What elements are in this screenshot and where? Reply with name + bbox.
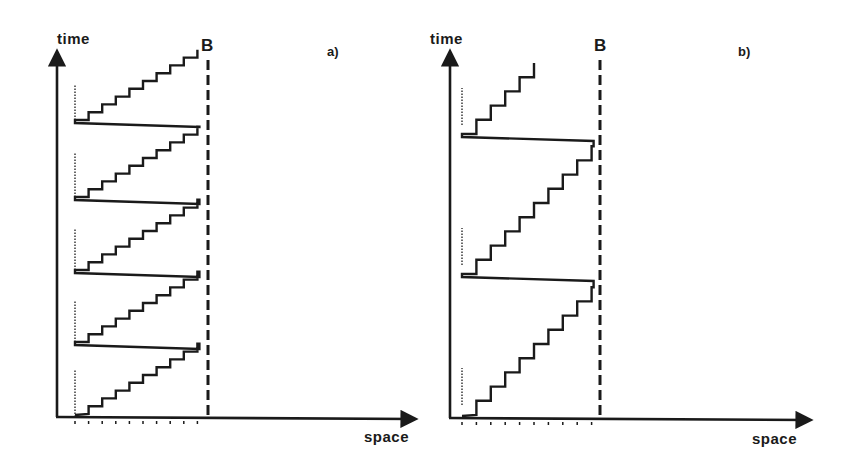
x-axis-arrow — [449, 418, 810, 420]
panel-b-x-axis-label: space — [752, 430, 797, 447]
panel-a-label: a) — [327, 44, 339, 59]
panel-a-diagram — [56, 50, 415, 424]
panel-b-y-axis-label: time — [430, 30, 463, 47]
staircase-trajectory — [75, 50, 199, 415]
figure-canvas — [0, 0, 846, 469]
panel-b-diagram — [449, 52, 810, 425]
staircase-trajectory — [462, 63, 594, 416]
panel-a-x-axis-label: space — [364, 428, 409, 445]
panel-a-boundary-label: B — [201, 36, 213, 56]
panel-b-boundary-label: B — [594, 36, 606, 56]
x-axis-arrow — [56, 417, 415, 419]
panel-b-label: b) — [738, 44, 750, 59]
panel-a-y-axis-label: time — [57, 30, 90, 47]
